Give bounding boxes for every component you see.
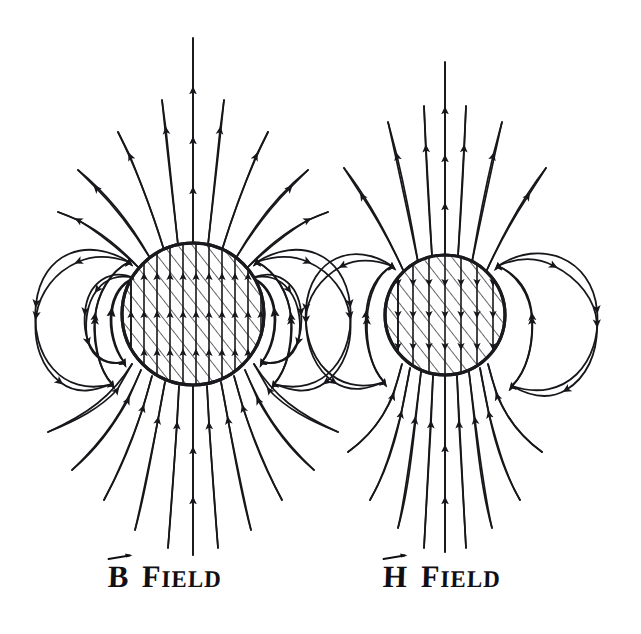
h-field-word-rest: IELD bbox=[440, 567, 501, 593]
h-field-label: H FIELD bbox=[383, 552, 501, 592]
b-field-panel bbox=[35, 38, 350, 555]
b-north-fan bbox=[58, 38, 328, 268]
field-diagram-figure: B FIELD H FIELD bbox=[0, 0, 641, 634]
field-diagram-canvas bbox=[0, 0, 641, 634]
h-magnet-hatching bbox=[381, 251, 511, 381]
b-south-fan bbox=[48, 364, 338, 555]
b-letter-glyph: B bbox=[107, 559, 129, 594]
h-south-fan bbox=[348, 364, 542, 552]
b-loops-left bbox=[35, 250, 134, 391]
b-vector-letter: B bbox=[107, 552, 130, 592]
b-field-word-cap: F bbox=[142, 559, 162, 593]
b-field-word-rest: IELD bbox=[161, 567, 222, 593]
b-field-word: FIELD bbox=[142, 561, 223, 592]
b-field-label: B FIELD bbox=[108, 552, 222, 592]
h-vector-letter: H bbox=[382, 552, 408, 592]
h-loop-left bbox=[306, 254, 392, 389]
b-loops-right bbox=[252, 250, 351, 391]
h-field-word: FIELD bbox=[420, 561, 501, 592]
h-north-fan bbox=[344, 62, 546, 272]
h-field-word-cap: F bbox=[420, 559, 440, 593]
h-letter-glyph: H bbox=[382, 559, 408, 594]
h-loop-right bbox=[498, 253, 597, 396]
